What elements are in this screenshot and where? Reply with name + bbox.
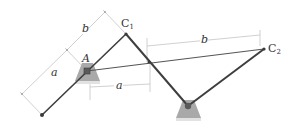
ground-shadow [176, 118, 201, 121]
pin-a-icon [84, 68, 90, 74]
pin-b-icon [185, 103, 191, 109]
point-label-c1: C1 [121, 17, 134, 31]
linkage-diagram: b a a b A C1 C2 [0, 0, 295, 132]
point-label-c2: C2 [268, 42, 281, 56]
point-label-c1-sub: 1 [129, 23, 133, 31]
point-label-c1-main: C [121, 17, 129, 30]
dimension-inclined-group [20, 10, 126, 115]
dim-label-b-horizontal: b [201, 33, 208, 46]
dim-label-b-inclined: b [82, 22, 89, 35]
joint-d-icon [40, 113, 44, 117]
dim-label-a-horizontal: a [116, 79, 123, 92]
extension-line-d [20, 92, 42, 115]
point-label-c2-main: C [268, 42, 276, 55]
dim-label-a-inclined: a [51, 66, 58, 79]
joint-c2-icon [262, 47, 265, 50]
point-label-c2-sub: 2 [276, 48, 280, 56]
point-label-a: A [81, 52, 90, 65]
dim-tick-icon [66, 49, 68, 51]
dim-tick-icon [104, 11, 106, 13]
crossing-joint-icon [148, 61, 151, 64]
joint-c1-icon [124, 32, 127, 35]
ground-shadow [75, 81, 100, 84]
dim-tick-icon [21, 93, 23, 95]
dim-line-a-inclined [22, 50, 67, 94]
